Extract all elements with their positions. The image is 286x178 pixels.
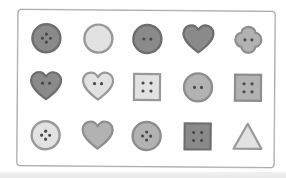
light-circle-button-icon <box>80 20 116 56</box>
buttons-grid <box>19 10 275 12</box>
dark-heart-button-icon <box>180 21 216 57</box>
light-square-button-icon <box>129 69 165 105</box>
dark-circle-button-icon <box>129 21 165 57</box>
mid-circle-button-icon <box>180 69 216 105</box>
dark-circle-button-icon <box>28 20 64 56</box>
mid-flower-button-icon <box>230 22 266 58</box>
buttons-worksheet-frame <box>16 9 275 168</box>
mid-circle-button-icon <box>128 118 164 154</box>
light-circle-button-icon <box>27 117 63 153</box>
mid-heart-button-icon <box>79 117 115 153</box>
mid-square-button-icon <box>230 70 266 106</box>
light-heart-button-icon <box>80 68 116 104</box>
dark-square-button-icon <box>179 118 215 154</box>
dark-heart-button-icon <box>28 68 64 104</box>
page-edge-shadow <box>0 172 286 178</box>
light-triangle-button-icon <box>229 119 265 155</box>
